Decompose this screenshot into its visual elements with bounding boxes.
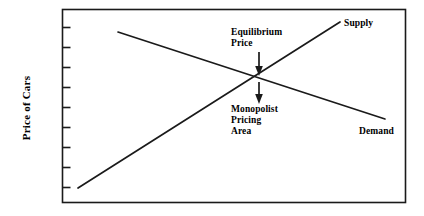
- monopolist-pricing-area-label: Monopolist Pricing Area: [231, 104, 278, 137]
- y-axis-ticks: [63, 28, 71, 188]
- supply-curve-label: Supply: [344, 18, 373, 29]
- supply-demand-chart: Price of Cars Equilibrium Price Monopoli…: [0, 0, 424, 216]
- monopolist-arrow-head: [255, 94, 263, 104]
- chart-canvas: [0, 0, 424, 216]
- y-axis-title: Price of Cars: [20, 28, 32, 188]
- monopolist-area-arrow: [255, 82, 263, 104]
- equilibrium-price-label: Equilibrium Price: [231, 27, 282, 49]
- demand-curve-label: Demand: [359, 126, 394, 137]
- supply-curve: [78, 22, 340, 188]
